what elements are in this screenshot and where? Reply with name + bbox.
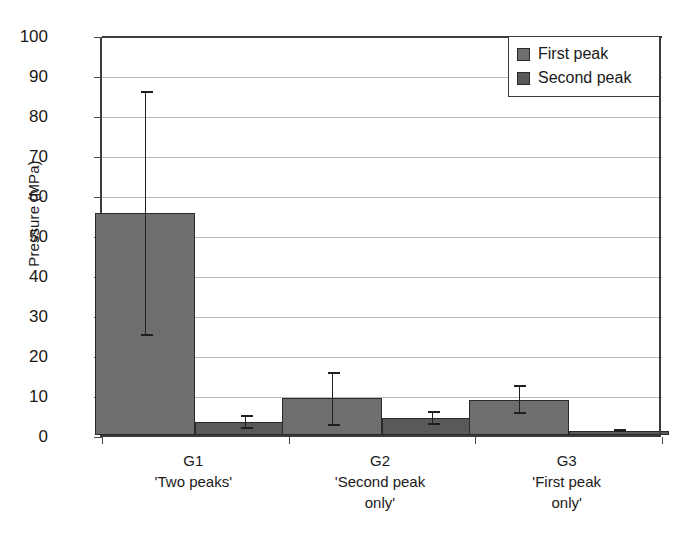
error-bar-cap-bottom xyxy=(514,412,526,414)
y-axis-tick-label: 10 xyxy=(0,388,48,405)
legend-label-first-peak: First peak xyxy=(538,46,608,62)
y-axis-tick-mark xyxy=(94,117,102,118)
category-sublabel: 'Two peaks' xyxy=(100,471,287,492)
y-axis-tick-mark xyxy=(94,37,102,38)
error-bar xyxy=(619,429,620,432)
category-sublabel: only' xyxy=(473,492,660,513)
legend-swatch-second-peak xyxy=(517,72,530,85)
legend-item-second-peak: Second peak xyxy=(517,66,651,90)
error-bar-cap-top xyxy=(328,372,340,374)
error-bar-cap-top xyxy=(514,385,526,387)
error-bar xyxy=(432,411,433,425)
plot-right-edge xyxy=(659,37,661,437)
y-axis-tick-label: 20 xyxy=(0,348,48,365)
gridline xyxy=(102,157,662,158)
error-bar xyxy=(519,385,520,414)
error-bar-cap-bottom xyxy=(328,424,340,426)
x-axis-tick-mark xyxy=(289,437,290,444)
y-axis-tick-label: 70 xyxy=(0,148,48,165)
y-axis-tick-label: 80 xyxy=(0,108,48,125)
y-axis-tick-label: 100 xyxy=(0,28,48,45)
plot-area xyxy=(100,37,660,437)
x-axis-tick-mark xyxy=(475,437,476,444)
chart-legend: First peak Second peak xyxy=(508,36,660,97)
error-bar-cap-bottom xyxy=(141,334,153,336)
y-axis-tick-mark xyxy=(94,77,102,78)
error-bar-cap-top xyxy=(141,91,153,93)
x-axis-category-label: G2'Second peakonly' xyxy=(287,450,474,513)
error-bar xyxy=(332,372,333,426)
y-axis-tick-label: 50 xyxy=(0,228,48,245)
legend-swatch-first-peak xyxy=(517,48,530,61)
y-axis-tick-label: 40 xyxy=(0,268,48,285)
category-sublabel: only' xyxy=(287,492,474,513)
error-bar-cap-bottom xyxy=(428,423,440,425)
y-axis-tick-label: 60 xyxy=(0,188,48,205)
x-axis-tick-mark xyxy=(102,437,103,444)
error-bar xyxy=(145,91,146,336)
category-sublabel: 'Second peak xyxy=(287,471,474,492)
x-axis-category-label: G1'Two peaks' xyxy=(100,450,287,492)
legend-item-first-peak: First peak xyxy=(517,42,651,66)
y-axis-tick-mark xyxy=(94,197,102,198)
error-bar-cap-bottom xyxy=(614,430,626,432)
x-axis-tick-mark xyxy=(662,437,663,444)
category-name: G3 xyxy=(473,450,660,471)
gridline xyxy=(102,117,662,118)
legend-label-second-peak: Second peak xyxy=(538,70,631,86)
gridline xyxy=(102,197,662,198)
error-bar-cap-top xyxy=(428,411,440,413)
category-sublabel: 'First peak xyxy=(473,471,660,492)
x-axis-category-label: G3'First peakonly' xyxy=(473,450,660,513)
bar-chart: Pressure (MPa) 1009080706050403020100 G1… xyxy=(0,0,696,545)
y-axis-tick-mark xyxy=(94,157,102,158)
y-axis-tick-mark xyxy=(94,437,102,438)
error-bar xyxy=(245,415,246,429)
category-name: G1 xyxy=(100,450,287,471)
y-axis-tick-label: 0 xyxy=(0,428,48,445)
error-bar-cap-top xyxy=(241,415,253,417)
category-name: G2 xyxy=(287,450,474,471)
y-axis-tick-label: 30 xyxy=(0,308,48,325)
y-axis-tick-label: 90 xyxy=(0,68,48,85)
error-bar-cap-bottom xyxy=(241,427,253,429)
